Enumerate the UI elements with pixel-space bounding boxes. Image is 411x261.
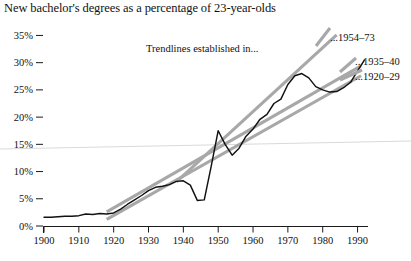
legend-item-1954-73: ...1954–73 <box>330 32 375 43</box>
chart-container: New bachelor's degrees as a percentage o… <box>0 0 411 261</box>
y-tick-label: 25% <box>14 84 34 95</box>
trend-line-1954-73 <box>176 35 336 182</box>
x-tick-label: 1920 <box>103 235 124 246</box>
scan-artifact-line <box>0 141 411 149</box>
trend-line-1935-40 <box>107 66 361 212</box>
x-tick-label: 1960 <box>243 235 264 246</box>
y-tick-label: 10% <box>14 166 34 177</box>
x-tick-group: 1900191019201930194019501960197019801990 <box>34 226 369 246</box>
y-tick-label: 0% <box>19 221 33 232</box>
x-tick-label: 1990 <box>347 235 368 246</box>
trendlines-group <box>107 35 361 220</box>
axes-group <box>44 227 369 234</box>
x-tick-label: 1950 <box>208 235 229 246</box>
y-tick-label: 5% <box>19 193 33 204</box>
x-tick-label: 1970 <box>277 235 298 246</box>
x-tick-label: 1900 <box>34 235 55 246</box>
y-tick-label: 15% <box>14 139 34 150</box>
x-tick-label: 1910 <box>68 235 89 246</box>
x-tick-label: 1980 <box>312 235 333 246</box>
data-series-group <box>44 60 365 217</box>
y-tick-label: 20% <box>14 112 34 123</box>
trendlines-annotation: Trendlines established in... <box>146 43 258 54</box>
x-tick-label: 1940 <box>173 235 194 246</box>
data-series-line <box>44 60 365 217</box>
trend-line-1920-29 <box>107 76 361 220</box>
legend-item-1935-40: ...1935–40 <box>355 56 400 67</box>
legend-item-1920-29: ...1920–29 <box>355 71 400 82</box>
y-tick-group: 0%5%10%15%20%25%30%35% <box>14 30 43 232</box>
y-tick-label: 30% <box>14 57 34 68</box>
x-tick-label: 1930 <box>138 235 159 246</box>
chart-plot-area: 0%5%10%15%20%25%30%35% 19001910192019301… <box>0 0 411 261</box>
y-tick-label: 35% <box>14 30 34 41</box>
legend-group: ...1954–73 ...1935–40 ...1920–29 <box>316 28 400 82</box>
